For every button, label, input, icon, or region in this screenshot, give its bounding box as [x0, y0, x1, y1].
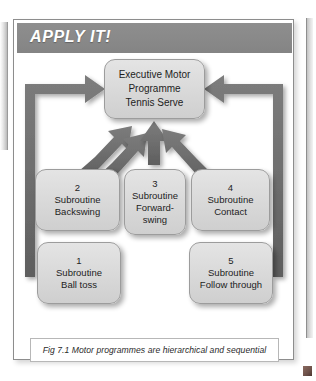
node-subroutine-forward-swing[interactable]: 3 Subroutine Forward- swing	[124, 169, 186, 235]
node-line: Subroutine	[56, 267, 102, 279]
node-line: Executive Motor	[119, 68, 191, 82]
node-line: Programme	[128, 82, 180, 96]
node-number: 2	[75, 182, 80, 194]
apply-it-title: APPLY IT!	[30, 28, 111, 46]
node-line: Tennis Serve	[126, 96, 184, 110]
page-edge-right	[306, 18, 313, 338]
node-number: 1	[76, 255, 81, 267]
figure-caption-text: Fig 7.1 Motor programmes are hierarchica…	[43, 345, 266, 355]
node-number: 4	[228, 182, 233, 194]
page-edge-left	[0, 22, 8, 150]
page-corner-mark	[303, 366, 312, 376]
node-line: Subroutine	[132, 190, 178, 202]
figure-caption-box: Fig 7.1 Motor programmes are hierarchica…	[30, 338, 279, 362]
node-subroutine-contact[interactable]: 4 Subroutine Contact	[191, 169, 270, 231]
node-line: Ball toss	[61, 279, 97, 291]
motor-programme-diagram: Executive Motor Programme Tennis Serve 1…	[17, 53, 292, 336]
node-line: Follow through	[200, 279, 262, 291]
node-line: Contact	[214, 206, 247, 218]
node-executive-motor-programme[interactable]: Executive Motor Programme Tennis Serve	[104, 59, 205, 119]
node-subroutine-ball-toss[interactable]: 1 Subroutine Ball toss	[37, 242, 121, 304]
node-line: Forward-	[136, 202, 174, 214]
node-number: 3	[152, 178, 157, 190]
node-line: swing	[143, 214, 167, 226]
node-line: Subroutine	[208, 194, 254, 206]
node-subroutine-follow-through[interactable]: 5 Subroutine Follow through	[189, 242, 273, 304]
node-line: Subroutine	[208, 267, 254, 279]
node-line: Subroutine	[55, 194, 101, 206]
node-line: Backswing	[55, 206, 100, 218]
node-subroutine-backswing[interactable]: 2 Subroutine Backswing	[35, 169, 120, 231]
apply-it-header: APPLY IT!	[17, 23, 292, 53]
apply-it-card: APPLY IT!	[13, 19, 294, 360]
node-number: 5	[228, 255, 233, 267]
